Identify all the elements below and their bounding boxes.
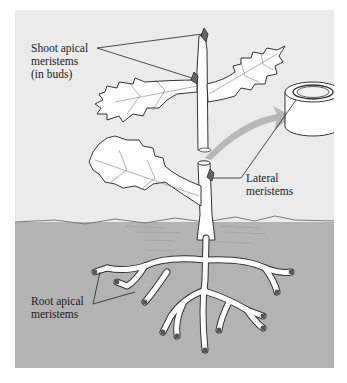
label-shoot-line1: Shoot apical — [31, 42, 88, 55]
label-shoot-apical-meristems: Shoot apical meristems (in buds) — [31, 42, 88, 81]
magnify-arrow-icon — [205, 106, 291, 160]
soil-surface-line — [15, 216, 334, 224]
label-root-line1: Root apical — [31, 295, 84, 308]
label-lateral-line1: Lateral — [246, 172, 293, 185]
label-root-apical-meristems: Root apical meristems — [31, 295, 84, 321]
soil-texture — [125, 226, 265, 251]
leaf-upper-right — [207, 46, 285, 102]
diagram-panel: Shoot apical meristems (in buds) Lateral… — [15, 10, 334, 368]
label-lateral-line2: meristems — [246, 185, 293, 198]
label-shoot-line3: (in buds) — [31, 68, 88, 81]
label-lateral-meristems: Lateral meristems — [246, 172, 293, 198]
upper-stem — [197, 34, 208, 150]
leaf-lower-left — [89, 136, 201, 206]
leaf-upper-left — [95, 78, 197, 122]
label-shoot-line2: meristems — [31, 55, 88, 68]
cylinder-icon — [285, 82, 334, 136]
label-root-line2: meristems — [31, 308, 84, 321]
